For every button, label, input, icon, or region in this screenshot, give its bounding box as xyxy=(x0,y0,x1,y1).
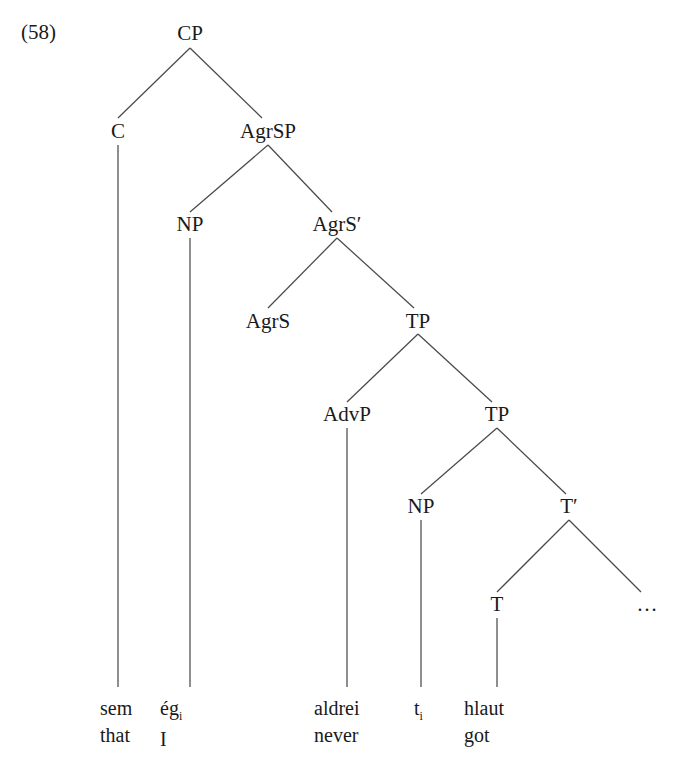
node-tp-upper: TP xyxy=(406,311,431,332)
branch-tp-advp xyxy=(347,334,418,402)
node-agrsp: AgrSP xyxy=(240,121,296,142)
terminal-gloss: that xyxy=(100,725,132,745)
branch-tplower-tbar xyxy=(497,428,566,494)
branch-tbar-ellipsis xyxy=(569,520,641,592)
node-agrs: AgrS xyxy=(246,311,290,332)
node-np-subject: NP xyxy=(177,214,204,235)
terminal-word: aldrei xyxy=(314,698,360,718)
terminal-word: égi xyxy=(160,698,182,722)
node-tp-lower: TP xyxy=(485,404,510,425)
branch-agrsp-agrsbar xyxy=(268,145,332,212)
node-ellipsis: … xyxy=(637,594,660,615)
terminal-c-terminal: sem that xyxy=(100,698,132,745)
branch-tbar-t xyxy=(497,520,569,592)
terminal-word-subscript: i xyxy=(179,709,182,723)
node-t-bar: T′ xyxy=(560,496,577,517)
node-np-trace: NP xyxy=(408,496,435,517)
branch-agrsp-np xyxy=(190,145,268,212)
branch-tp-tp xyxy=(418,334,492,402)
node-advp: AdvP xyxy=(323,404,371,425)
branch-cp-c xyxy=(118,48,190,118)
node-cp: CP xyxy=(177,23,203,44)
terminal-gloss: never xyxy=(314,725,360,745)
branch-agrsbar-agrs xyxy=(268,238,337,308)
node-t: T xyxy=(491,594,504,615)
tree-diagram-figure: (58) CP C AgrSP NP AgrS′ xyxy=(0,0,689,779)
terminal-word: sem xyxy=(100,698,132,718)
terminal-trace-terminal: ti xyxy=(414,698,423,729)
terminal-word-text: ég xyxy=(160,697,179,719)
tree-branches xyxy=(0,0,689,779)
node-agrs-bar: AgrS′ xyxy=(313,214,362,235)
terminal-gloss: got xyxy=(464,725,504,745)
terminal-word: ti xyxy=(414,698,423,722)
terminal-t-terminal: hlaut got xyxy=(464,698,504,745)
terminal-gloss: I xyxy=(160,729,182,749)
terminal-np-terminal: égi I xyxy=(160,698,182,749)
node-c: C xyxy=(111,121,125,142)
terminal-word-subscript: i xyxy=(420,709,423,723)
terminal-advp-terminal: aldrei never xyxy=(314,698,360,745)
terminal-word: hlaut xyxy=(464,698,504,718)
branch-cp-agrsp xyxy=(190,48,262,118)
branch-tplower-np xyxy=(421,428,497,494)
branch-agrsbar-tp xyxy=(337,238,414,308)
